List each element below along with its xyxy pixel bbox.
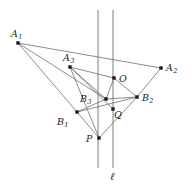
geometry-figure: A1A3A2OB3B2QB1Pℓ (0, 0, 192, 190)
point-A3 (68, 65, 71, 68)
point-label-A3: A3 (63, 53, 74, 63)
point-label-O: O (119, 74, 127, 84)
point-B3 (104, 97, 107, 100)
point-label-B2: B2 (142, 93, 153, 103)
point-B1 (75, 110, 78, 113)
figure-canvas (0, 0, 192, 190)
point-P (97, 136, 100, 139)
segment-A3-Q (70, 67, 113, 109)
point-label-A1: A1 (11, 29, 22, 39)
line-label-ell: ℓ (110, 171, 114, 182)
point-label-Q: Q (114, 110, 122, 120)
segment-A1-B3 (18, 43, 106, 99)
point-label-P: P (86, 134, 92, 144)
point-label-B3: B3 (80, 94, 91, 104)
point-label-B1: B1 (57, 117, 68, 127)
point-A2 (159, 66, 162, 69)
segment-A1-A2 (18, 43, 161, 68)
point-O (112, 76, 115, 79)
point-A1 (16, 41, 19, 44)
point-label-A2: A2 (166, 63, 177, 73)
point-B2 (135, 95, 138, 98)
